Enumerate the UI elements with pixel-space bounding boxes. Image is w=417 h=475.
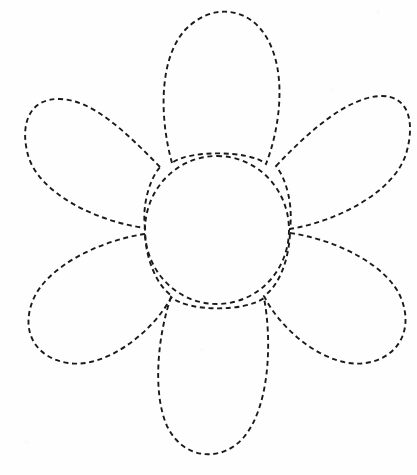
petal-upper-left <box>25 99 160 228</box>
flower-center <box>145 156 289 304</box>
flower-tracing-illustration <box>0 0 417 475</box>
petal-group <box>25 12 410 455</box>
worksheet-canvas <box>0 0 417 475</box>
petal-upper-right <box>276 96 410 229</box>
petal-lower-left <box>28 234 172 364</box>
petal-lower-right <box>264 233 406 364</box>
center-group <box>145 156 289 304</box>
petal-bottom <box>158 297 268 454</box>
petal-top <box>164 12 280 164</box>
